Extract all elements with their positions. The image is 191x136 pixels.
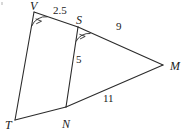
angle-mark-V-arc [32,17,48,27]
length-label-SM: 9 [116,21,122,32]
geometry-figure: V S M T N 2.5 9 5 11 [0,0,191,136]
length-label-VS: 2.5 [53,5,67,16]
segment-NM [66,65,163,107]
length-label-NM: 11 [103,93,114,104]
segment-SM [78,27,163,65]
figure-canvas [0,0,191,136]
vertex-label-M: M [170,60,180,72]
vertex-label-V: V [30,0,37,12]
vertex-label-S: S [76,14,82,26]
scan-artifact-speck [1,2,3,5]
vertex-label-T: T [5,119,12,131]
segment-TN [15,107,66,120]
vertex-label-N: N [62,118,70,130]
segment-SN [66,27,78,107]
angle-mark-V-tick [36,19,42,24]
segment-VT [15,12,34,120]
length-label-SN: 5 [76,54,82,65]
